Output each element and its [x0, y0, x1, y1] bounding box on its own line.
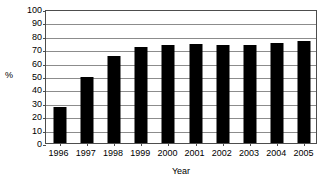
- y-axis-tick-labels: 1009080706050403020100: [16, 4, 42, 148]
- y-tick-label: 10: [16, 127, 42, 136]
- bar: [243, 45, 256, 143]
- bar-slot: [236, 11, 263, 143]
- x-tick-mark: [304, 143, 305, 146]
- x-tick-mark: [277, 143, 278, 146]
- x-tick-label: 2001: [181, 148, 208, 159]
- y-tick-mark: [43, 145, 46, 146]
- y-tick-label: 50: [16, 73, 42, 82]
- bar-series: [46, 11, 316, 143]
- x-tick-mark: [141, 143, 142, 146]
- x-tick-mark: [60, 143, 61, 146]
- y-tick-label: 0: [16, 140, 42, 149]
- plot-area: [45, 10, 317, 144]
- x-tick-mark: [168, 143, 169, 146]
- y-tick-label: 20: [16, 113, 42, 122]
- x-tick-label: 1999: [127, 148, 154, 159]
- y-tick-label: 70: [16, 46, 42, 55]
- x-tick-mark: [196, 143, 197, 146]
- bar: [53, 107, 66, 143]
- x-axis-tick-labels: 1996199719981999200020012002200320042005: [45, 148, 317, 160]
- bar: [271, 43, 284, 143]
- bar: [162, 45, 175, 143]
- y-tick-label: 90: [16, 19, 42, 28]
- x-tick-mark: [223, 143, 224, 146]
- y-tick-label: 100: [16, 6, 42, 15]
- x-tick-label: 1998: [99, 148, 126, 159]
- bar: [216, 45, 229, 143]
- x-tick-label: 2000: [154, 148, 181, 159]
- y-tick-label: 80: [16, 33, 42, 42]
- bar: [107, 56, 120, 143]
- bar: [298, 41, 311, 143]
- x-tick-mark: [87, 143, 88, 146]
- x-tick-label: 1997: [72, 148, 99, 159]
- bar: [135, 47, 148, 143]
- bar-slot: [264, 11, 291, 143]
- x-tick-mark: [114, 143, 115, 146]
- y-tick-label: 60: [16, 60, 42, 69]
- x-tick-label: 2004: [263, 148, 290, 159]
- bar-slot: [73, 11, 100, 143]
- x-tick-label: 1996: [45, 148, 72, 159]
- bar-slot: [100, 11, 127, 143]
- x-tick-label: 2005: [290, 148, 317, 159]
- x-tick-label: 2003: [235, 148, 262, 159]
- y-axis-title: %: [2, 70, 16, 80]
- bar-slot: [128, 11, 155, 143]
- y-tick-label: 40: [16, 86, 42, 95]
- bar-slot: [209, 11, 236, 143]
- bar-chart-figure: % 1009080706050403020100 199619971998199…: [0, 0, 328, 191]
- x-axis-title: Year: [45, 166, 317, 177]
- bar-slot: [46, 11, 73, 143]
- x-tick-mark: [250, 143, 251, 146]
- bar: [189, 44, 202, 143]
- x-tick-label: 2002: [208, 148, 235, 159]
- bar-slot: [182, 11, 209, 143]
- bar-slot: [155, 11, 182, 143]
- bar-slot: [291, 11, 318, 143]
- y-tick-label: 30: [16, 100, 42, 109]
- bar: [80, 77, 93, 143]
